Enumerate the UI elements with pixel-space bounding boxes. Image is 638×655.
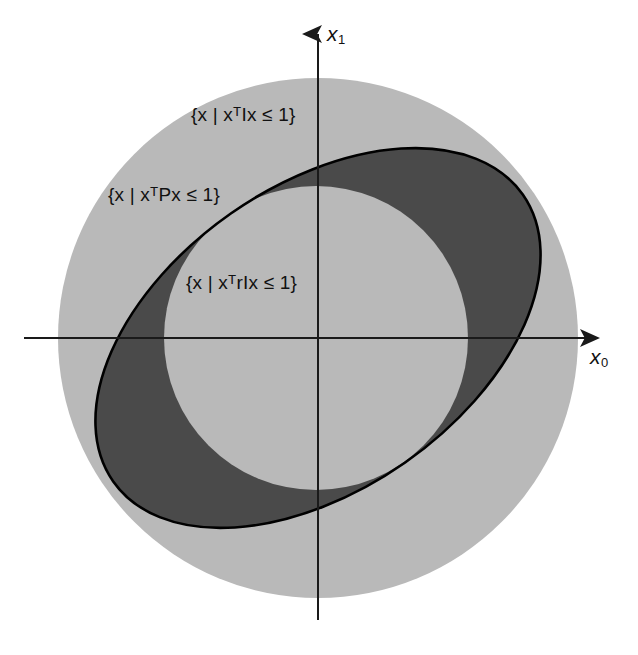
quadratic-sublevel-set-figure: {x | xᵀIx ≤ 1} {x | xᵀPx ≤ 1} {x | xᵀrIx… — [0, 0, 638, 655]
x-axis-label-subscript: 0 — [601, 355, 608, 370]
y-axis-label-base: x — [327, 22, 338, 45]
y-axis-label: x1 — [327, 22, 345, 47]
ellipse-set-label: {x | xᵀPx ≤ 1} — [108, 184, 220, 206]
x-axis-label-base: x — [590, 345, 601, 368]
x-axis-label: x0 — [590, 345, 608, 370]
figure-canvas — [0, 0, 638, 655]
y-axis-label-subscript: 1 — [338, 32, 345, 47]
outer-set-label: {x | xᵀIx ≤ 1} — [191, 104, 296, 126]
inner-set-label: {x | xᵀrIx ≤ 1} — [186, 272, 297, 294]
